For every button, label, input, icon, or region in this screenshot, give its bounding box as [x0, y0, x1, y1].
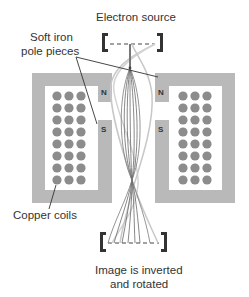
source-left-bracket — [102, 33, 108, 52]
image-left-bracket — [100, 232, 106, 252]
copper-coils-label: Copper coils — [13, 208, 77, 222]
source-right-bracket — [157, 33, 163, 52]
electron-source-label: Electron source — [96, 10, 176, 24]
pole-pieces-label-line1: Soft iron — [30, 30, 73, 44]
image-label-line1: Image is inverted — [95, 263, 183, 277]
image-right-bracket — [161, 232, 167, 252]
pole-pieces-label-line2: pole pieces — [21, 44, 79, 58]
right-north-pole-label: N — [158, 88, 164, 97]
right-coil-panel — [169, 86, 222, 190]
right-south-pole-label: S — [158, 125, 164, 134]
left-south-pole-label: S — [101, 125, 107, 134]
left-north-pole-label: N — [101, 88, 107, 97]
right-electromagnet: N S — [155, 73, 235, 203]
image-label-line2: and rotated — [110, 277, 168, 291]
electron-source — [102, 33, 163, 52]
left-electromagnet: N S — [32, 73, 112, 203]
electron-beam — [108, 44, 158, 243]
